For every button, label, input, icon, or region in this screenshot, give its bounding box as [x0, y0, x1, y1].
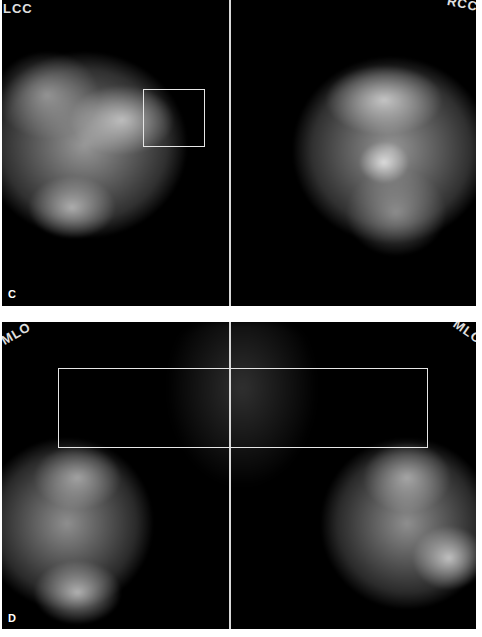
view-marker-right: MLO: [451, 322, 476, 347]
view-marker-left: LCC: [3, 1, 33, 16]
region-of-interest-box: [143, 89, 205, 147]
panel-label-d: D: [8, 612, 16, 624]
right-breast-tissue-cc: [252, 25, 476, 275]
region-of-interest-box: [58, 368, 428, 448]
view-marker-left: MLO: [2, 322, 34, 348]
view-marker-right: RCC: [446, 0, 476, 14]
mammogram-panel-d: MLO MLO D: [2, 322, 476, 629]
panel-divider-line: [229, 0, 231, 306]
panel-label-c: C: [8, 288, 16, 300]
mammogram-panel-c: LCC RCC C: [2, 0, 476, 306]
